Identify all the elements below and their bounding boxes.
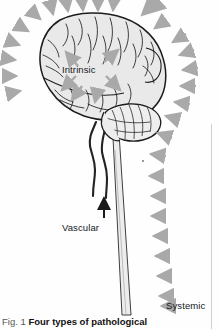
label-systemic: Systemic (166, 300, 205, 311)
caption-figure-number: Fig. 1 (2, 316, 26, 327)
systemic-arrow (180, 50, 194, 55)
systemic-arrow (30, 10, 40, 19)
systemic-arrow (82, 0, 83, 10)
systemic-arrow (6, 91, 20, 94)
column-rule (211, 124, 212, 329)
systemic-arrow (66, 0, 68, 11)
figure-panel: Intrinsic Vascular Systemic Fig. 1 Four … (0, 0, 219, 329)
label-vascular: Vascular (62, 222, 99, 233)
scan-speck (142, 160, 144, 162)
brain-diagram (0, 0, 219, 329)
systemic-arrow (113, 0, 114, 10)
cerebral-vessels (90, 122, 107, 198)
systemic-arrow (158, 133, 172, 138)
systemic-arrow (16, 24, 28, 31)
systemic-arrow (175, 102, 190, 104)
spinal-cord (112, 118, 131, 315)
systemic-arrow (151, 154, 166, 156)
cerebrum (40, 13, 166, 120)
systemic-arrow-large (143, 0, 158, 14)
systemic-arrow (155, 20, 166, 28)
systemic-arrow (2, 58, 15, 60)
systemic-arrow (183, 68, 198, 70)
systemic-arrow (50, 2, 53, 14)
systemic-arrow (173, 34, 186, 42)
caption-title: Four types of pathological (28, 316, 147, 327)
systemic-arrow (166, 116, 180, 120)
figure-caption: Fig. 1 Four types of pathological (2, 316, 217, 329)
systemic-arrow (6, 40, 19, 45)
label-intrinsic: Intrinsic (62, 64, 96, 75)
